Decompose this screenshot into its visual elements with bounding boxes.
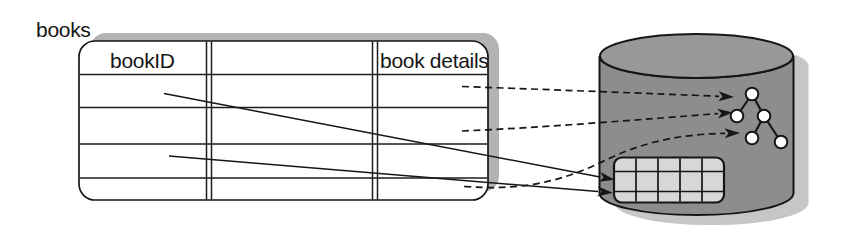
tree-node-right <box>758 110 771 123</box>
table-title-label: books <box>36 19 91 40</box>
tree-node-leaf-left <box>746 132 759 145</box>
tree-node-left <box>731 110 744 123</box>
tree-node-root <box>746 88 759 101</box>
grid-structure <box>614 158 724 203</box>
column-header-bookid: bookID <box>110 50 175 71</box>
grid-border <box>614 158 724 203</box>
diagram-graphics <box>0 0 841 234</box>
tree-node-leaf-right <box>775 136 788 149</box>
column-header-book-details: book details <box>380 50 488 71</box>
cylinder-top <box>600 34 793 78</box>
database-cylinder <box>600 34 809 225</box>
diagram-canvas: books bookID book details <box>0 0 841 234</box>
